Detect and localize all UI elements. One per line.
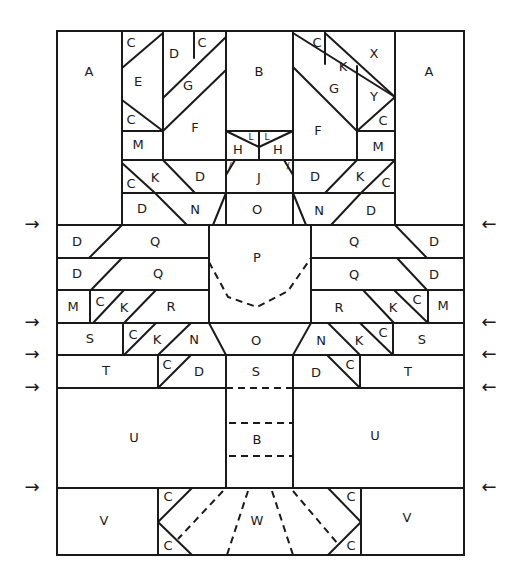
arrow-right-icon: → xyxy=(24,476,39,497)
piece-label-K3: K xyxy=(356,169,365,184)
piece-label-F-right: F xyxy=(314,123,321,138)
arrow-right-icon: → xyxy=(24,376,39,397)
piece-label-R-left: R xyxy=(166,299,175,314)
piece-label-D11: D xyxy=(311,365,321,380)
piece-label-C4: C xyxy=(126,176,135,191)
piece-label-H-right: H xyxy=(273,142,283,157)
piece-label-D7: D xyxy=(429,234,439,249)
piece-label-U-left: U xyxy=(129,430,139,445)
arrow-right-icon: → xyxy=(24,311,39,332)
arrow-left-icon: ← xyxy=(481,343,496,364)
piece-label-D10: D xyxy=(194,364,204,379)
piece-label-C13: C xyxy=(345,357,354,372)
arrow-left-icon: ← xyxy=(481,311,496,332)
piece-label-C9: C xyxy=(412,292,421,307)
piece-label-F-left: F xyxy=(191,120,198,135)
piece-label-D6: D xyxy=(72,234,82,249)
piece-label-X: X xyxy=(370,46,379,61)
piece-label-V-left: V xyxy=(100,513,109,528)
piece-label-D9: D xyxy=(429,267,439,282)
piece-label-C7: C xyxy=(381,175,390,190)
piece-label-K1: K xyxy=(151,170,160,185)
piece-label-M-left-top: M xyxy=(132,137,143,152)
piece-label-N1: N xyxy=(190,202,200,217)
piece-label-Q1: Q xyxy=(150,234,160,249)
dashed-lines xyxy=(178,258,338,555)
piece-label-D1: D xyxy=(169,46,179,61)
piece-label-C1: C xyxy=(126,35,135,50)
piece-label-Q2: Q xyxy=(349,234,359,249)
piece-label-P: P xyxy=(253,250,261,265)
piece-labels: AABCDCEGCFMCKDDNCXKGYCFMDKCNDHHLLJODQPQD… xyxy=(67,35,448,553)
piece-label-Y: Y xyxy=(369,89,378,104)
piece-label-K2: K xyxy=(339,59,348,74)
piece-label-A-left: A xyxy=(85,64,94,79)
piece-label-T-right: T xyxy=(403,364,412,379)
piece-label-D4: D xyxy=(310,169,320,184)
piece-label-C3: C xyxy=(126,112,135,127)
arrow-left-icon: ← xyxy=(481,376,496,397)
piece-label-K6: K xyxy=(153,332,162,347)
piece-label-G-right: G xyxy=(329,81,339,96)
piece-label-D2: D xyxy=(195,169,205,184)
piece-label-Q3: Q xyxy=(153,266,163,281)
piece-label-S-mid: S xyxy=(252,364,260,379)
piece-label-K4: K xyxy=(120,300,129,315)
piece-label-T-left: T xyxy=(101,363,110,378)
piece-label-U-right: U xyxy=(370,428,380,443)
piece-label-N3: N xyxy=(189,332,199,347)
outer-border xyxy=(57,31,464,555)
quilt-diagram: AABCDCEGCFMCKDDNCXKGYCFMDKCNDHHLLJODQPQD… xyxy=(0,0,521,587)
piece-label-O-top: O xyxy=(252,202,262,217)
piece-label-V-right: V xyxy=(403,510,412,525)
piece-label-C14: C xyxy=(163,489,172,504)
piece-label-C2: C xyxy=(197,35,206,50)
piece-label-C10: C xyxy=(128,327,137,342)
piece-label-S-right: S xyxy=(418,332,426,347)
piece-label-C12: C xyxy=(162,357,171,372)
piece-label-N4: N xyxy=(316,333,326,348)
piece-label-R-right: R xyxy=(334,300,343,315)
piece-label-K7: K xyxy=(355,333,364,348)
piece-label-D3: D xyxy=(137,201,147,216)
piece-label-D5: D xyxy=(366,203,376,218)
arrow-left-icon: ← xyxy=(481,213,496,234)
piece-label-L-left: L xyxy=(248,132,253,142)
piece-label-M-right-mid: M xyxy=(437,298,448,313)
piece-label-A-right: A xyxy=(425,64,434,79)
p-curve xyxy=(209,258,311,307)
piece-label-L-right: L xyxy=(264,132,269,142)
piece-label-M-left-mid: M xyxy=(67,299,78,314)
piece-label-W: W xyxy=(251,513,264,528)
piece-label-C17: C xyxy=(346,538,355,553)
piece-label-J: J xyxy=(256,170,261,185)
piece-label-O-mid: O xyxy=(251,333,261,348)
piece-label-C6: C xyxy=(378,113,387,128)
piece-label-D8: D xyxy=(72,266,82,281)
piece-label-N2: N xyxy=(314,203,324,218)
piece-label-C5: C xyxy=(312,35,321,50)
piece-label-M-right-top: M xyxy=(372,139,383,154)
piece-label-B-mid: B xyxy=(253,432,262,447)
solid-lines xyxy=(57,31,464,555)
piece-label-S-left: S xyxy=(86,331,94,346)
arrow-right-icon: → xyxy=(24,213,39,234)
piece-label-K5: K xyxy=(389,300,398,315)
piece-label-C16: C xyxy=(346,489,355,504)
piece-label-G-left: G xyxy=(183,78,193,93)
piece-label-E: E xyxy=(134,74,142,89)
piece-label-Q4: Q xyxy=(349,267,359,282)
arrow-right-icon: → xyxy=(24,343,39,364)
piece-label-H-left: H xyxy=(233,142,243,157)
piece-label-B-top: B xyxy=(255,64,264,79)
piece-label-C15: C xyxy=(163,538,172,553)
piece-label-C11: C xyxy=(378,325,387,340)
arrow-left-icon: ← xyxy=(481,476,496,497)
piece-label-C8: C xyxy=(95,294,104,309)
